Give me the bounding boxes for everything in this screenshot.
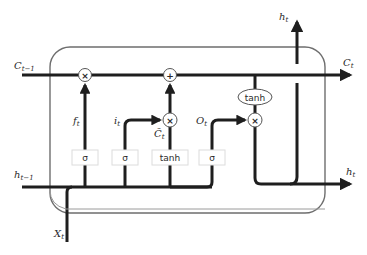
svg-text:+: + [166, 71, 174, 81]
svg-text:σ: σ [82, 153, 88, 163]
svg-text:×: × [81, 71, 89, 81]
forget-sigmoid-box: σ [72, 150, 98, 165]
output-multiply-op: × [248, 113, 262, 127]
svg-text:σ: σ [209, 153, 215, 163]
label-input-gate: it [114, 115, 120, 128]
label-x-t: Xt [53, 228, 64, 241]
output-sigmoid-box: σ [199, 150, 225, 165]
label-c-prev: Ct−1 [14, 60, 35, 73]
label-h-prev: ht−1 [14, 169, 34, 182]
lstm-diagram: × + × × tanh σ σ tanh σ Ct−1 ht−1 Xt Ct … [0, 0, 367, 255]
svg-text:tanh: tanh [245, 93, 265, 103]
svg-text:σ: σ [122, 153, 128, 163]
label-output-gate: Ot [196, 115, 207, 128]
label-h-t-right: ht [346, 166, 355, 179]
cell-tanh-node: tanh [238, 89, 272, 105]
svg-text:×: × [251, 116, 259, 126]
add-op: + [164, 69, 177, 82]
svg-text:tanh: tanh [160, 153, 180, 163]
svg-text:×: × [166, 116, 174, 126]
label-h-t-up: ht [279, 11, 288, 24]
forget-multiply-op: × [79, 69, 92, 82]
hidden-state-bus [22, 187, 325, 242]
input-sigmoid-box: σ [112, 150, 138, 165]
candidate-tanh-box: tanh [152, 150, 188, 165]
label-c-t: Ct [343, 57, 354, 70]
label-forget-gate: ft [72, 115, 80, 128]
label-candidate: C̃t [154, 128, 165, 141]
input-multiply-op: × [163, 113, 177, 127]
